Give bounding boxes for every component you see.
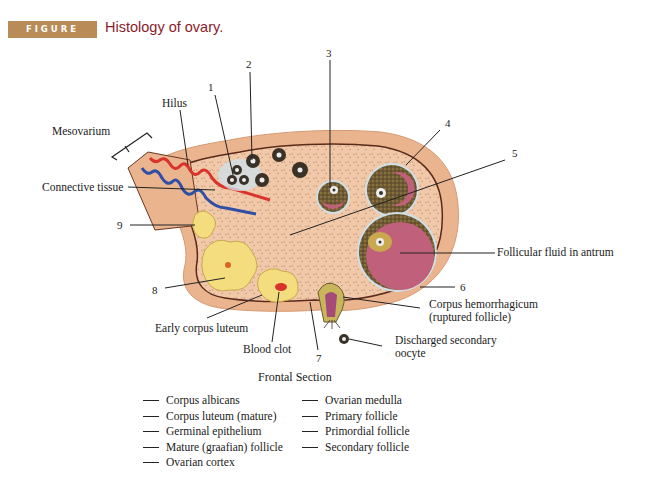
number-2: 2 [246, 58, 252, 71]
section-caption: Frontal Section [258, 370, 332, 385]
answer-blank[interactable] [143, 447, 159, 448]
answer-blank[interactable] [302, 400, 318, 401]
discharged-oocyte [339, 334, 349, 344]
number-9: 9 [117, 219, 123, 232]
label-hilus: Hilus [162, 97, 187, 110]
corpus-hemorrhagicum [318, 283, 344, 329]
checklist-item[interactable]: Germinal epithelium [143, 424, 283, 440]
number-6: 6 [460, 281, 466, 294]
checklist-item[interactable]: Secondary follicle [302, 440, 410, 456]
label-early-corpus-luteum: Early corpus luteum [155, 322, 248, 335]
checklist-left: Corpus albicans Corpus luteum (mature) G… [143, 393, 283, 471]
label-blood-clot: Blood clot [243, 343, 291, 356]
number-8: 8 [152, 284, 158, 297]
number-3: 3 [326, 47, 332, 60]
vesicular-follicle [365, 163, 419, 217]
answer-blank[interactable] [143, 400, 159, 401]
mature-corpus-luteum-8 [202, 240, 257, 291]
answer-blank[interactable] [143, 431, 159, 432]
label-ruptured-follicle: (ruptured follicle) [429, 311, 511, 324]
checklist-item[interactable]: Primary follicle [302, 409, 410, 425]
checklist-right: Ovarian medulla Primary follicle Primord… [302, 393, 410, 455]
mature-follicle [357, 212, 437, 292]
label-corpus-hemorrhagicum: Corpus hemorrhagicum [429, 298, 538, 311]
answer-blank[interactable] [143, 416, 159, 417]
answer-blank[interactable] [302, 447, 318, 448]
secondary-follicle [316, 180, 350, 214]
number-1: 1 [208, 81, 214, 94]
checklist-item[interactable]: Corpus albicans [143, 393, 283, 409]
label-mesovarium: Mesovarium [52, 125, 110, 138]
checklist-item[interactable]: Primordial follicle [302, 424, 410, 440]
checklist-item[interactable]: Ovarian cortex [143, 455, 283, 471]
number-5: 5 [512, 147, 518, 160]
number-7: 7 [316, 352, 322, 365]
label-connective-tissue: Connective tissue [42, 181, 123, 194]
checklist-item[interactable]: Mature (graafian) follicle [143, 440, 283, 456]
label-discharged-oocyte: Discharged secondary [395, 334, 497, 347]
checklist-item[interactable]: Corpus luteum (mature) [143, 409, 283, 425]
label-discharged-oocyte-2: oocyte [395, 347, 426, 360]
answer-blank[interactable] [302, 431, 318, 432]
answer-blank[interactable] [143, 462, 159, 463]
checklist-item[interactable]: Ovarian medulla [302, 393, 410, 409]
number-4: 4 [445, 117, 451, 130]
answer-blank[interactable] [302, 416, 318, 417]
label-follicular-fluid: Follicular fluid in antrum [497, 246, 614, 259]
